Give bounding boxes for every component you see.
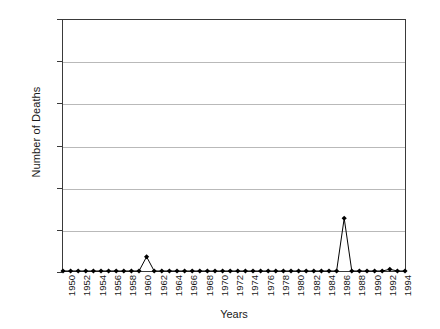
data-point-marker <box>258 268 263 273</box>
data-point-marker <box>395 268 400 273</box>
data-point-marker <box>212 268 217 273</box>
data-point-marker <box>402 268 407 273</box>
x-axis-title: Years <box>62 308 406 320</box>
data-point-marker <box>266 268 271 273</box>
data-point-marker <box>68 268 73 273</box>
data-point-marker <box>357 268 362 273</box>
data-point-marker <box>334 268 339 273</box>
data-point-marker <box>182 268 187 273</box>
series-polyline <box>63 218 405 271</box>
data-point-marker <box>319 268 324 273</box>
data-point-marker <box>243 268 248 273</box>
data-point-marker <box>152 268 157 273</box>
data-point-marker <box>372 268 377 273</box>
data-point-marker <box>83 268 88 273</box>
data-point-marker <box>342 216 347 221</box>
data-point-marker <box>159 268 164 273</box>
data-point-marker <box>174 268 179 273</box>
data-point-marker <box>296 268 301 273</box>
data-point-marker <box>91 268 96 273</box>
data-point-marker <box>349 268 354 273</box>
data-point-marker <box>380 268 385 273</box>
data-point-marker <box>326 268 331 273</box>
data-point-marker <box>364 268 369 273</box>
data-point-marker <box>304 268 309 273</box>
plot-area <box>62 19 406 272</box>
data-point-marker <box>235 268 240 273</box>
data-point-marker <box>228 268 233 273</box>
data-point-marker <box>190 268 195 273</box>
data-point-marker <box>205 268 210 273</box>
data-point-marker <box>311 268 316 273</box>
y-axis-tick-mark <box>57 272 62 273</box>
data-point-marker <box>288 268 293 273</box>
y-axis-title: Number of Deaths <box>30 52 42 212</box>
series-line-deaths <box>63 20 405 271</box>
data-point-marker <box>106 268 111 273</box>
data-point-marker <box>114 268 119 273</box>
data-point-marker <box>144 254 149 259</box>
data-point-marker <box>129 268 134 273</box>
data-point-marker <box>281 268 286 273</box>
data-point-marker <box>76 268 81 273</box>
data-point-marker <box>197 268 202 273</box>
data-point-marker <box>121 268 126 273</box>
data-point-marker <box>250 268 255 273</box>
data-point-marker <box>167 268 172 273</box>
data-point-marker <box>387 267 392 272</box>
data-point-marker <box>136 268 141 273</box>
chart-figure: Number of Deaths 050100150200250300 1950… <box>0 0 440 329</box>
data-point-marker <box>98 268 103 273</box>
data-point-marker <box>273 268 278 273</box>
data-point-marker <box>220 268 225 273</box>
